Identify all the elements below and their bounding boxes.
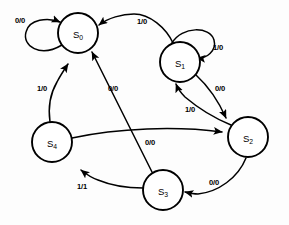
- edges-layer: [25, 14, 246, 194]
- edge-label-s1-s1: 1/0: [213, 43, 223, 52]
- edge-s4-s0: [49, 64, 68, 122]
- edge-s0-s0: [25, 19, 62, 50]
- edge-label-s2-s3: 0/0: [209, 178, 219, 187]
- edge-label-s2-s1: 1/0: [185, 105, 195, 114]
- edge-s1-s2: [196, 75, 226, 118]
- edge-s3-s4: [81, 170, 143, 188]
- edge-s2-s3: [185, 158, 246, 194]
- edge-label-s3-s0: 0/0: [108, 84, 118, 93]
- edge-label-s4-s0: 1/0: [37, 84, 47, 93]
- fsm-canvas: S0 S1 S2 S3 S4 0/0 1/0 1/0 0/0 1/0 0/0 0…: [0, 0, 289, 225]
- edge-label-s0-s0: 0/0: [15, 16, 25, 25]
- edge-s1-s0: [99, 14, 173, 43]
- edge-s3-s0: [92, 52, 152, 172]
- nodes-layer: [32, 13, 268, 210]
- fsm-diagram: S0 S1 S2 S3 S4 0/0 1/0 1/0 0/0 1/0 0/0 0…: [0, 0, 289, 225]
- edge-label-s4-s2: 0/0: [145, 138, 155, 147]
- edge-label-s3-s4: 1/1: [77, 182, 88, 191]
- edge-label-s1-s2: 0/0: [215, 84, 225, 93]
- edge-label-s1-s0: 1/0: [137, 17, 147, 26]
